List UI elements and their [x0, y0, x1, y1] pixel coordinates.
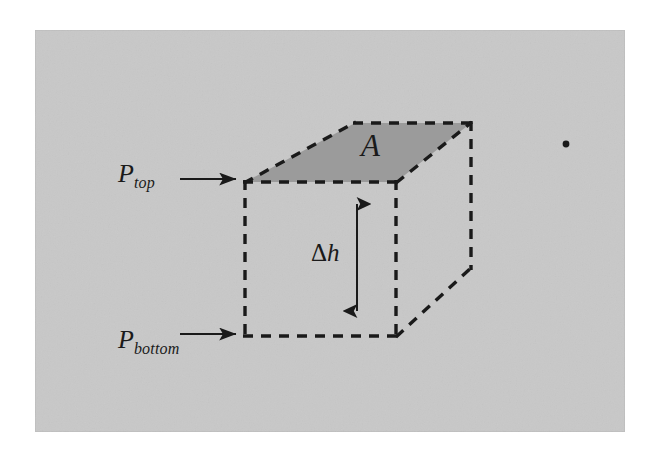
figure-canvas	[0, 0, 648, 455]
stray-dot	[563, 141, 570, 148]
h-symbol: h	[327, 239, 340, 266]
area-label: A	[361, 130, 380, 161]
delta-h-label: Δh	[311, 240, 340, 265]
p-bottom-subscript: bottom	[134, 340, 180, 357]
p-top-subscript: top	[134, 174, 155, 191]
p-bottom-label: Pbottom	[118, 327, 180, 357]
gray-background-panel	[35, 30, 625, 432]
delta-symbol: Δ	[311, 239, 327, 266]
figure-root: Ptop Pbottom A Δh	[0, 0, 648, 455]
p-top-label: Ptop	[118, 161, 155, 191]
p-bottom-symbol: P	[118, 325, 134, 354]
p-top-symbol: P	[118, 159, 134, 188]
